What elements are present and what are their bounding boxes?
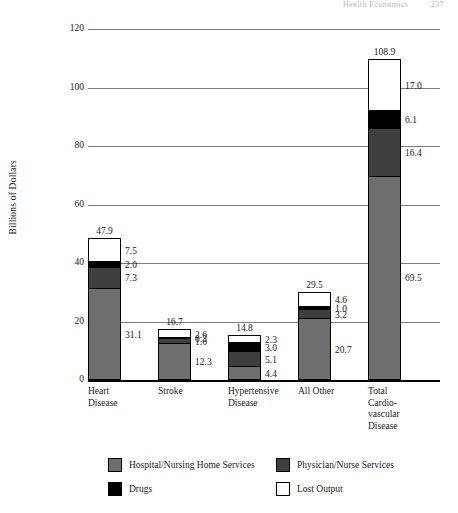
stacked-bar[interactable] <box>88 238 121 380</box>
bar-segment-lost[interactable] <box>229 336 260 343</box>
bar-segment-lost[interactable] <box>299 293 330 306</box>
category-label-line: Heart <box>88 386 152 398</box>
y-tick-label-0: 0 <box>40 375 84 385</box>
bar-segment-value-label-lost: 4.6 <box>335 295 347 305</box>
legend-swatch-icon-physician <box>276 458 290 472</box>
stacked-bar[interactable] <box>368 59 401 380</box>
category-label-all-other: All Other <box>298 386 362 398</box>
bar-segment-value-label-hospital: 12.3 <box>195 357 212 367</box>
plot-area: 02040608010012047.931.17.32.07.516.712.3… <box>88 29 440 380</box>
bar-segment-physician[interactable] <box>89 267 120 288</box>
category-label-line: All Other <box>298 386 362 398</box>
chart-legend: Hospital/Nursing Home Services Physician… <box>108 458 438 506</box>
bar-segment-drugs[interactable] <box>369 110 400 128</box>
bar-total-label: 16.7 <box>158 317 191 327</box>
category-label-total-cardiovascular-disease: TotalCardio-vascularDisease <box>368 386 432 432</box>
bar-segment-lost[interactable] <box>159 330 190 338</box>
y-tick-label-100: 100 <box>40 83 84 93</box>
y-axis-title: Billions of Dollars <box>8 160 18 235</box>
category-label-heart-disease: HeartDisease <box>88 386 152 409</box>
bar-total-label: 29.5 <box>298 280 331 290</box>
bar-segment-value-label-lost: 17.0 <box>405 81 422 91</box>
category-label-stroke: Stroke <box>158 386 222 398</box>
stacked-bar[interactable] <box>298 292 331 380</box>
bar-segment-physician[interactable] <box>299 309 330 318</box>
y-tick-label-60: 60 <box>40 200 84 210</box>
legend-row-2: Drugs Lost Output <box>108 482 438 496</box>
bar-segment-physician[interactable] <box>229 351 260 366</box>
category-label-line: Stroke <box>158 386 222 398</box>
bar-segment-drugs[interactable] <box>229 342 260 351</box>
legend-item-physician-nurse-services: Physician/Nurse Services <box>276 458 394 472</box>
bar-segment-value-label-lost: 7.5 <box>125 246 137 256</box>
y-tick-label-40: 40 <box>40 258 84 268</box>
bar-segment-value-label-hospital: 20.7 <box>335 345 352 355</box>
bar-total-label: 14.8 <box>228 323 261 333</box>
bar-segment-value-label-hospital: 31.1 <box>125 330 142 340</box>
gridline-0 <box>88 380 440 382</box>
legend-label-drugs: Drugs <box>129 483 152 495</box>
category-label-hypertensive-disease: HypertensiveDisease <box>228 386 292 409</box>
bar-segment-physician[interactable] <box>369 128 400 176</box>
stacked-bar[interactable] <box>158 329 191 380</box>
category-label-line: Disease <box>228 398 292 410</box>
legend-item-drugs: Drugs <box>108 482 276 496</box>
gridline-120 <box>88 29 440 30</box>
legend-swatch-icon-drugs <box>108 482 122 496</box>
stacked-bar-chart: Billions of Dollars 02040608010012047.93… <box>0 0 458 513</box>
legend-label-lost-output: Lost Output <box>297 483 343 495</box>
bar-segment-lost[interactable] <box>89 239 120 261</box>
bar-segment-hospital[interactable] <box>159 343 190 379</box>
category-label-line: vascular <box>368 409 432 421</box>
bar-total-label: 47.9 <box>88 226 121 236</box>
bar-segment-value-label-drugs: 2.0 <box>125 260 137 270</box>
category-label-line: Total <box>368 386 432 398</box>
bar-total-label: 108.9 <box>368 47 401 57</box>
legend-row-1: Hospital/Nursing Home Services Physician… <box>108 458 438 472</box>
bar-segment-value-label-hospital: 4.4 <box>265 369 277 379</box>
legend-item-lost-output: Lost Output <box>276 482 343 496</box>
bar-segment-value-label-physician: 5.1 <box>265 355 277 365</box>
category-label-line: Disease <box>368 421 432 433</box>
bar-segment-value-label-hospital: 69.5 <box>405 273 422 283</box>
legend-label-physician: Physician/Nurse Services <box>297 459 394 471</box>
bar-segment-hospital[interactable] <box>89 288 120 379</box>
bar-segment-value-label-lost: 2.3 <box>265 335 277 345</box>
bar-segment-value-label-drugs: 6.1 <box>405 115 417 125</box>
legend-swatch-icon-lost-output <box>276 482 290 496</box>
category-label-line: Disease <box>88 398 152 410</box>
category-label-line: Hypertensive <box>228 386 292 398</box>
y-tick-label-120: 120 <box>40 24 84 34</box>
bar-segment-value-label-lost: 2.6 <box>195 330 207 340</box>
bar-segment-hospital[interactable] <box>299 318 330 379</box>
stacked-bar[interactable] <box>228 335 261 380</box>
legend-swatch-icon-hospital <box>108 458 122 472</box>
category-label-line: Cardio- <box>368 398 432 410</box>
y-tick-label-20: 20 <box>40 317 84 327</box>
bar-segment-value-label-physician: 16.4 <box>405 148 422 158</box>
y-tick-label-80: 80 <box>40 141 84 151</box>
bar-segment-hospital[interactable] <box>369 176 400 379</box>
bar-segment-lost[interactable] <box>369 60 400 110</box>
legend-item-hospital-nursing-home-services: Hospital/Nursing Home Services <box>108 458 276 472</box>
bar-segment-hospital[interactable] <box>229 366 260 379</box>
bar-segment-value-label-physician: 7.3 <box>125 273 137 283</box>
legend-label-hospital: Hospital/Nursing Home Services <box>129 459 255 471</box>
